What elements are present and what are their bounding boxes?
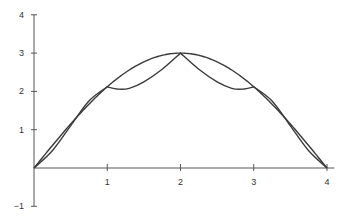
chart: 4321−11234: [0, 0, 348, 218]
y-tick-label: 1: [19, 125, 24, 135]
curves: [34, 53, 327, 168]
x-tick-label: 4: [324, 177, 329, 187]
series-cusped-curve: [34, 53, 327, 168]
x-tick-label: 2: [178, 177, 183, 187]
y-tick-label: 4: [19, 10, 24, 20]
tick-labels: 4321−11234: [14, 10, 330, 212]
plot-area: 4321−11234: [0, 0, 348, 218]
series-smooth-curve: [34, 53, 327, 168]
y-tick-label: 3: [19, 48, 24, 58]
x-tick-label: 3: [251, 177, 256, 187]
y-tick-label: −1: [14, 201, 24, 211]
y-tick-label: 2: [19, 86, 24, 96]
x-tick-label: 1: [105, 177, 110, 187]
